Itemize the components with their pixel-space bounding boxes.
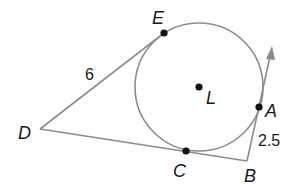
point-c (182, 147, 189, 154)
length-de: 6 (85, 66, 94, 83)
label-b: B (244, 166, 256, 186)
length-ba: 2.5 (258, 132, 280, 149)
point-e (160, 29, 167, 36)
label-a: A (264, 101, 277, 121)
segment-de (40, 33, 164, 129)
arrowhead-icon (266, 46, 275, 60)
label-c: C (173, 161, 187, 181)
label-e: E (152, 8, 165, 28)
geometry-diagram: E L A D C B 6 2.5 (0, 0, 301, 196)
point-a (255, 103, 262, 110)
label-d: D (18, 123, 31, 143)
label-l: L (206, 88, 216, 108)
segment-db (40, 129, 247, 161)
point-l-center (195, 83, 202, 90)
